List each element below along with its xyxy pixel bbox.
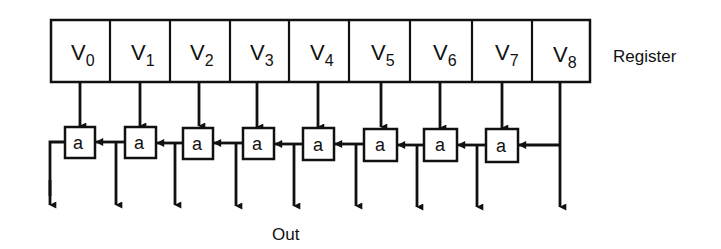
adder-label-0: a	[73, 133, 84, 153]
adder-label-6: a	[435, 135, 446, 155]
register-label: Register	[613, 47, 677, 66]
register-to-adder-arrows	[80, 82, 502, 128]
adder-label-1: a	[134, 133, 145, 153]
adder-label-7: a	[496, 136, 507, 156]
adder-label-3: a	[252, 134, 263, 154]
adder-label-4: a	[313, 135, 324, 155]
adder-label-5: a	[375, 135, 386, 155]
output-label: Out	[272, 225, 300, 244]
adder-label-2: a	[192, 134, 203, 154]
register-adder-diagram: V0 V1 V2 V3 V4 V5 V6 V7 V8 Register a a …	[0, 0, 721, 249]
